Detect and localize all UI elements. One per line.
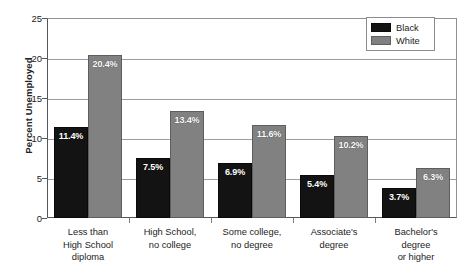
bar-value-label: 13.4% [171, 115, 203, 125]
y-tick-label: 20 [18, 53, 42, 64]
bar-value-label: 3.7% [383, 192, 415, 202]
x-category-line: Less than [47, 226, 129, 239]
bar-group: 7.5%13.4% [129, 18, 211, 218]
bar-group: 11.4%20.4% [47, 18, 129, 218]
x-tick-mark [293, 218, 294, 223]
bar-value-label: 20.4% [89, 59, 121, 69]
x-category-line: diploma [47, 251, 129, 264]
x-tick-mark [375, 218, 376, 223]
bar-white[interactable]: 10.2% [334, 136, 368, 218]
bar-white[interactable]: 11.6% [252, 125, 286, 218]
x-tick-mark [211, 218, 212, 223]
bar-black[interactable]: 5.4% [300, 175, 334, 218]
x-category-line: or higher [375, 251, 457, 264]
x-category-line: High School, [129, 226, 211, 239]
legend: Black White [366, 17, 435, 51]
x-category-line: degree [293, 239, 375, 252]
x-category-line: High School [47, 239, 129, 252]
x-category-label: Bachelor'sdegreeor higher [375, 226, 457, 264]
x-category-line: no college [129, 239, 211, 252]
bar-white[interactable]: 6.3% [416, 168, 450, 218]
y-axis-title: Percent Unemployed [23, 21, 34, 191]
bar-white[interactable]: 13.4% [170, 111, 204, 218]
x-category-line: degree [375, 239, 457, 252]
x-category-line: Some college, [211, 226, 293, 239]
x-category-label: Less thanHigh Schooldiploma [47, 226, 129, 264]
x-tick-mark [129, 218, 130, 223]
x-category-label: High School,no college [129, 226, 211, 251]
legend-item-black: Black [371, 21, 430, 34]
bar-value-label: 7.5% [137, 162, 169, 172]
bar-black[interactable]: 11.4% [54, 127, 88, 218]
legend-label-white: White [396, 36, 420, 46]
x-category-label: Associate'sdegree [293, 226, 375, 251]
bar-black[interactable]: 7.5% [136, 158, 170, 218]
bar-white[interactable]: 20.4% [88, 55, 122, 218]
legend-item-white: White [371, 34, 430, 47]
bar-group: 6.9%11.6% [211, 18, 293, 218]
bar-group: 5.4%10.2% [293, 18, 375, 218]
bar-black[interactable]: 6.9% [218, 163, 252, 218]
y-tick-mark [42, 218, 47, 219]
y-tick-label: 0 [18, 213, 42, 224]
x-category-line: Associate's [293, 226, 375, 239]
x-category-line: Bachelor's [375, 226, 457, 239]
y-tick-label: 25 [18, 13, 42, 24]
bar-chart: Percent Unemployed 0510152025 11.4%20.4%… [0, 0, 473, 276]
bar-value-label: 6.3% [417, 172, 449, 182]
legend-swatch-white-icon [371, 36, 391, 45]
bar-value-label: 6.9% [219, 167, 251, 177]
bar-value-label: 10.2% [335, 140, 367, 150]
x-category-line: no degree [211, 239, 293, 252]
y-tick-label: 10 [18, 133, 42, 144]
y-tick-label: 5 [18, 173, 42, 184]
legend-label-black: Black [396, 23, 419, 33]
legend-swatch-black-icon [371, 23, 391, 32]
y-tick-label: 15 [18, 93, 42, 104]
bar-black[interactable]: 3.7% [382, 188, 416, 218]
bar-value-label: 11.6% [253, 129, 285, 139]
bar-value-label: 11.4% [55, 131, 87, 141]
x-category-label: Some college,no degree [211, 226, 293, 251]
bar-value-label: 5.4% [301, 179, 333, 189]
